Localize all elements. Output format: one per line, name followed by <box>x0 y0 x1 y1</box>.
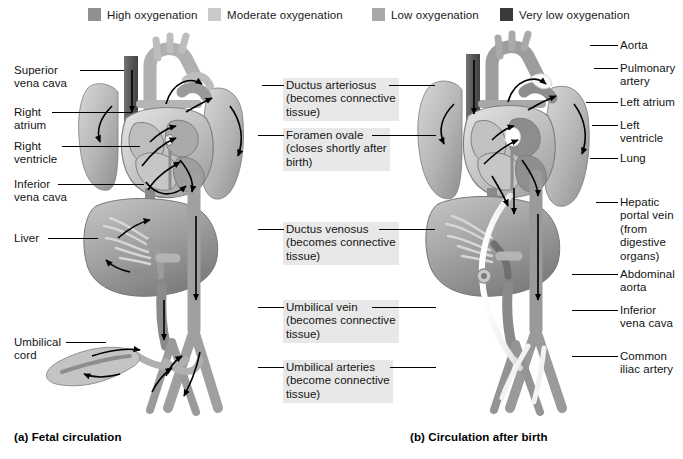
legend-swatch-high-oxygenation <box>88 8 101 21</box>
ductus-venosus <box>150 242 161 276</box>
label-left-atrium: Left atrium <box>620 96 675 109</box>
pulmonary-vessels-b <box>482 104 544 120</box>
flow-arrows-fetal <box>84 70 241 396</box>
leader-foramen-ovale-left <box>258 135 284 136</box>
medial-umbilical-ligaments <box>502 346 544 402</box>
leader-hepatic-portal-vein <box>596 202 618 203</box>
closed-ductus-arteriosus <box>530 74 552 89</box>
common-iliac-arteries-b <box>510 330 562 408</box>
leader-liver <box>48 238 98 239</box>
leader-ductus-venosus-right <box>379 229 435 230</box>
legend-label-high-oxygenation: High oxygenation <box>107 9 197 21</box>
leader-abdominal-aorta <box>572 274 618 275</box>
right-lung <box>79 84 118 191</box>
liver-vessels <box>104 218 150 264</box>
inferior-vena-cava-lower-b <box>507 286 512 346</box>
ductus-arteriosus <box>186 76 210 86</box>
label-common-iliac-artery: Common iliac artery <box>620 350 673 377</box>
legend-label-moderate-oxygenation: Moderate oxygenation <box>227 9 343 21</box>
legend-swatch-moderate-oxygenation <box>208 8 221 21</box>
leader-foramen-ovale-right <box>372 135 436 136</box>
superior-vena-cava <box>124 56 138 126</box>
leader-umbilical-cord <box>66 342 106 343</box>
pulmonary-trunk-b <box>524 88 552 98</box>
left-lung <box>202 88 244 199</box>
left-lung-b <box>544 86 589 206</box>
brachiocephalic-vessels <box>156 36 186 58</box>
label-right-ventricle: Right ventricle <box>14 140 57 167</box>
left-ventricle-b <box>516 155 547 191</box>
legend-swatch-low-oxygenation <box>372 8 385 21</box>
fetal-circulation-figure: High oxygenation Moderate oxygenation Lo… <box>0 0 683 459</box>
leader-common-iliac-artery <box>572 356 618 357</box>
heart-silhouette-b <box>463 106 555 198</box>
pulmonary-trunk <box>182 88 206 96</box>
legend-label-low-oxygenation: Low oxygenation <box>391 9 479 21</box>
label-umbilical-cord: Umbilical cord <box>14 336 61 363</box>
iliac-veins <box>150 342 196 412</box>
label-superior-vena-cava: Superior vena cava <box>14 64 67 91</box>
right-ventricle-b <box>478 153 520 190</box>
leader-right-atrium <box>52 112 132 113</box>
label-inferior-vena-cava-left: Inferior vena cava <box>14 178 67 205</box>
leader-left-ventricle <box>592 125 618 126</box>
left-atrium <box>166 120 199 157</box>
leader-umbilical-arteries-right <box>390 367 436 368</box>
leader-ductus-venosus-left <box>258 229 284 230</box>
caption-panel-a: (a) Fetal circulation <box>14 431 122 443</box>
leader-left-atrium <box>586 102 618 103</box>
left-ventricle <box>174 157 205 191</box>
umbilical-arteries <box>132 352 200 372</box>
liver-b <box>426 197 560 297</box>
label-umbilical-arteries: Umbilical arteries (become connective ti… <box>283 360 393 403</box>
leader-umbilical-vein-right <box>372 307 436 308</box>
umbilical-vein <box>62 356 130 372</box>
leader-lung <box>590 158 618 159</box>
liver <box>84 199 218 297</box>
inferior-vena-cava-lower <box>161 286 166 346</box>
label-right-atrium: Right atrium <box>14 106 46 133</box>
foramen-ovale <box>165 135 174 146</box>
common-iliac-arteries <box>168 330 218 408</box>
closed-foramen-ovale <box>505 128 520 146</box>
leader-umbilical-vein-left <box>258 307 284 308</box>
navel-center <box>481 273 487 279</box>
hepatic-portal-vein-fetal <box>124 272 156 277</box>
label-pulmonary-artery: Pulmonary artery <box>620 62 675 89</box>
right-lung-b <box>418 81 462 199</box>
leader-pulmonary-artery <box>594 68 618 69</box>
panel-a-fetal-circulation <box>46 36 243 412</box>
legend-item-low: Low oxygenation <box>372 8 479 21</box>
legend-label-very-low-oxygenation: Very low oxygenation <box>519 9 630 21</box>
leader-ductus-arteriosus-left <box>262 85 284 86</box>
liver-vessels-b <box>446 216 492 262</box>
right-atrium <box>129 122 164 163</box>
label-liver: Liver <box>14 232 39 245</box>
brachiocephalic-vessels-b <box>498 34 528 56</box>
legend-item-moderate: Moderate oxygenation <box>208 8 343 21</box>
round-ligament <box>482 196 520 368</box>
leader-inferior-vena-cava-left <box>58 184 144 185</box>
leader-umbilical-arteries-left <box>258 367 284 368</box>
hepatic-portal-vein <box>494 244 508 276</box>
leader-aorta <box>590 45 618 46</box>
oxygenation-legend: High oxygenation Moderate oxygenation Lo… <box>0 8 683 30</box>
label-inferior-vena-cava-right: Inferior vena cava <box>620 304 673 331</box>
legend-item-very-low: Very low oxygenation <box>500 8 630 21</box>
label-abdominal-aorta: Abdominal aorta <box>620 268 675 295</box>
flow-arrows-after-birth <box>441 60 585 300</box>
pulmonary-arteries <box>140 104 200 120</box>
left-atrium-b <box>508 118 541 157</box>
iliac-veins-b <box>494 344 540 412</box>
label-ductus-arteriosus: Ductus arteriosus (becomes connective ti… <box>283 78 399 121</box>
right-atrium-b <box>471 120 506 163</box>
legend-item-high: High oxygenation <box>88 8 197 21</box>
aortic-arch <box>150 49 196 118</box>
caption-panel-b: (b) Circulation after birth <box>410 431 548 443</box>
label-left-ventricle: Left ventricle <box>620 119 663 146</box>
panel-b-circulation-after-birth <box>418 34 589 412</box>
leader-ductus-arteriosus-right <box>389 85 435 86</box>
leader-inferior-vena-cava-right <box>572 310 618 311</box>
label-hepatic-portal-vein: Hepatic portal vein (from digestive orga… <box>620 196 674 263</box>
leader-right-ventricle <box>62 146 140 147</box>
